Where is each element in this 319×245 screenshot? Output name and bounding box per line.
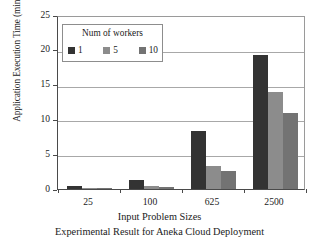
x-tick-mark-icon — [120, 189, 121, 193]
x-tick-label: 625 — [181, 196, 243, 208]
figure-caption: Experimental Result for Aneka Cloud Depl… — [0, 226, 319, 238]
legend-item-label: 1 — [78, 45, 83, 55]
legend-item-label: 5 — [113, 45, 118, 55]
legend-item-label: 10 — [149, 45, 158, 55]
x-tick-mark-icon — [58, 189, 59, 193]
bar[interactable] — [82, 188, 97, 189]
x-tick-mark-icon — [306, 189, 307, 193]
bar[interactable] — [283, 113, 298, 189]
x-tick-mark-icon — [182, 189, 183, 193]
bar[interactable] — [144, 186, 159, 189]
bar[interactable] — [159, 187, 174, 189]
y-tick-label: 5 — [45, 149, 50, 160]
legend-item[interactable]: 1 — [68, 45, 83, 55]
x-tick-label: 2500 — [243, 196, 305, 208]
bar-group — [190, 15, 237, 189]
legend-swatch-icon — [139, 47, 146, 54]
y-tick-label: 0 — [45, 184, 50, 195]
y-tick-label: 20 — [41, 44, 51, 55]
y-tick-label: 10 — [41, 114, 51, 125]
x-tick-mark-icon — [244, 189, 245, 193]
legend-item[interactable]: 10 — [139, 45, 158, 55]
bar[interactable] — [268, 92, 283, 189]
legend-swatch-icon — [68, 47, 75, 54]
y-axis-tick-group: 25 20 15 10 5 0 — [0, 16, 57, 190]
legend-title: Num of workers — [63, 28, 162, 39]
legend-swatch-icon — [103, 47, 110, 54]
bar[interactable] — [97, 188, 112, 189]
legend-items: 1 5 10 — [68, 45, 158, 55]
x-tick-label: 100 — [119, 196, 181, 208]
bar[interactable] — [221, 171, 236, 189]
figure-bar-chart: Application Execution Time (minutes) 25 … — [0, 0, 319, 245]
bar[interactable] — [129, 180, 144, 189]
y-tick-label: 25 — [41, 10, 51, 21]
bar[interactable] — [253, 55, 268, 189]
x-tick-label: 25 — [57, 196, 119, 208]
legend: Num of workers 1 5 10 — [62, 24, 163, 62]
x-axis-title: Input Problem Sizes — [0, 211, 319, 223]
bar-group — [252, 15, 299, 189]
legend-item[interactable]: 5 — [103, 45, 118, 55]
bar[interactable] — [191, 131, 206, 189]
y-tick-label: 15 — [41, 79, 51, 90]
bar[interactable] — [67, 186, 82, 189]
bar[interactable] — [206, 166, 221, 189]
